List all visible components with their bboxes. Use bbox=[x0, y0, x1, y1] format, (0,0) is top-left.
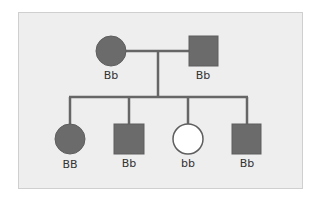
child1-genotype-label: BB bbox=[62, 158, 77, 171]
child4-affected-male bbox=[232, 124, 261, 154]
child3-genotype-label: bb bbox=[181, 157, 195, 170]
mother-genotype-label: Bb bbox=[104, 69, 119, 82]
pedigree-chart bbox=[0, 0, 319, 200]
father-genotype-label: Bb bbox=[196, 69, 211, 82]
child1-affected-female bbox=[55, 124, 85, 154]
child2-genotype-label: Bb bbox=[122, 157, 137, 170]
father-affected-male bbox=[189, 36, 218, 66]
child2-affected-male bbox=[114, 124, 144, 154]
child3-unaffected-female bbox=[173, 124, 203, 154]
child4-genotype-label: Bb bbox=[240, 157, 255, 170]
mother-affected-female bbox=[96, 36, 126, 66]
